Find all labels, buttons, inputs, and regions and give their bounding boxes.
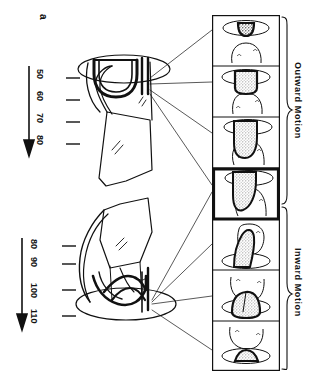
motion-label-outward: Outward Motion	[293, 62, 302, 139]
section-panel-4	[213, 169, 280, 219]
section-strip	[212, 15, 280, 371]
section-panel-3	[213, 120, 280, 169]
scale-inward-tick-1: 90	[29, 257, 38, 267]
section-panel-2	[213, 70, 280, 118]
scale-outward-tick-0: 50	[35, 69, 44, 79]
scale-inward-tick-2: 100	[29, 283, 38, 298]
section-panel-5	[213, 224, 280, 270]
scale-inward-tick-3: 110	[29, 309, 38, 324]
brace-outward	[282, 17, 292, 204]
section-panel-1	[213, 21, 280, 67]
scale-outward-tick-1: 60	[35, 91, 44, 101]
section-panel-6	[213, 277, 280, 321]
scale-outward-tick-3: 80	[35, 135, 44, 145]
scale-outward-graphics	[22, 62, 92, 172]
motion-label-inward: Inward Motion	[293, 248, 302, 317]
scale-inward-graphics	[14, 232, 94, 352]
brace-inward	[282, 207, 292, 370]
scale-inward-tick-0: 80	[29, 239, 38, 249]
scale-outward-tick-2: 70	[35, 113, 44, 123]
section-panel-7	[222, 327, 270, 364]
figure-root: a	[0, 0, 319, 387]
